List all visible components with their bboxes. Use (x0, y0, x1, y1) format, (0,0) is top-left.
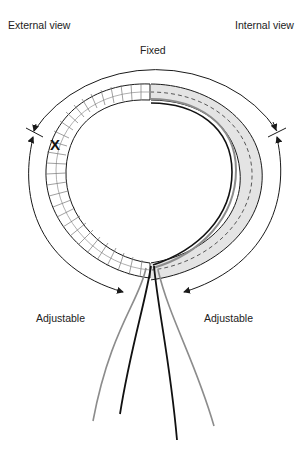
left-boundary-tick-icon (26, 124, 43, 142)
ring-external-segmented (46, 84, 150, 278)
strand-black-right (154, 266, 177, 440)
ring-diagram: X (0, 0, 302, 465)
suture-strands (93, 266, 214, 440)
svg-text:X: X (50, 136, 60, 153)
x-mark-icon: X (50, 136, 60, 153)
ring-internal-shaded (150, 84, 262, 280)
strand-black-left (120, 266, 151, 414)
